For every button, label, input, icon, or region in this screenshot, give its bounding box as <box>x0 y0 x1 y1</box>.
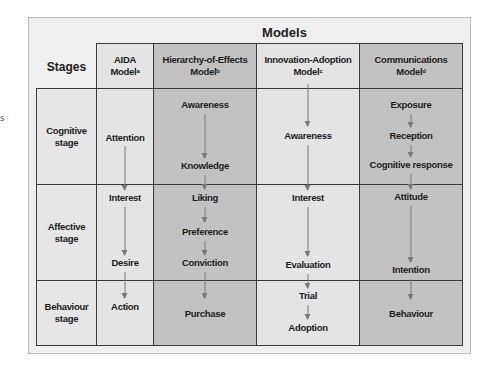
header-hierarchy-name: Hierarchy-of-Effects <box>163 54 248 65</box>
arrow-down-icon <box>411 174 412 189</box>
arrow-down-icon <box>411 279 412 299</box>
header-aida-model: Model <box>111 66 137 77</box>
header-communications-model: Model <box>396 66 422 77</box>
stage-affective-line1: Affective <box>48 221 85 232</box>
arrow-down-icon <box>308 145 309 190</box>
stage-cognitive-line2: stage <box>55 137 78 148</box>
arrow-down-icon <box>411 145 412 157</box>
header-innovation-adoption: Innovation-AdoptionModelc <box>256 43 360 89</box>
hierarchy-purchase: Purchase <box>185 308 225 319</box>
arrow-down-icon <box>308 84 309 126</box>
arrow-down-icon <box>205 272 206 298</box>
footnote-b: b <box>216 68 219 74</box>
innovation-evaluation: Evaluation <box>285 259 330 270</box>
hierarchy-liking: Liking <box>192 192 218 203</box>
hierarchy-awareness: Awareness <box>181 99 228 110</box>
communications-attitude: Attitude <box>394 191 427 202</box>
footnote-c: c <box>319 68 322 74</box>
hierarchy-knowledge: Knowledge <box>181 160 229 171</box>
aida-interest: Interest <box>109 192 141 203</box>
arrow-down-icon <box>308 305 309 319</box>
arrow-down-icon <box>411 114 412 127</box>
aida-action: Action <box>111 301 139 312</box>
header-aida: AIDAModela <box>96 43 154 89</box>
arrow-down-icon <box>205 114 206 158</box>
arrow-down-icon <box>205 175 206 189</box>
innovation-trial: Trial <box>299 290 317 301</box>
hierarchy-preference: Preference <box>182 226 228 237</box>
innovation-interest: Interest <box>292 192 324 203</box>
stage-behaviour-line2: stage <box>55 313 78 324</box>
hierarchy-conviction: Conviction <box>182 257 228 268</box>
aida-desire: Desire <box>111 257 138 268</box>
stage-behaviour: Behaviourstage <box>36 280 97 346</box>
header-innovation-model: Model <box>293 66 319 77</box>
cropped-text-fragment: s <box>0 113 5 123</box>
stage-affective-line2: stage <box>55 233 78 244</box>
arrow-down-icon <box>125 146 126 190</box>
stage-behaviour-line1: Behaviour <box>45 301 89 312</box>
header-communications-name: Communications <box>375 54 448 65</box>
arrow-down-icon <box>125 207 126 255</box>
communications-reception: Reception <box>389 130 432 141</box>
arrow-down-icon <box>205 241 206 255</box>
communications-behaviour: Behaviour <box>389 308 433 319</box>
arrow-down-icon <box>411 206 412 262</box>
innovation-awareness: Awareness <box>284 130 331 141</box>
aida-attention: Attention <box>106 132 145 143</box>
arrow-down-icon <box>205 207 206 222</box>
communications-exposure: Exposure <box>391 99 432 110</box>
header-communications: CommunicationsModeld <box>359 43 463 89</box>
arrow-down-icon <box>308 274 309 288</box>
stage-affective: Affectivestage <box>36 184 97 281</box>
communications-cognitive-response: Cognitive response <box>370 159 453 170</box>
communications-intention: Intention <box>392 264 429 275</box>
arrow-down-icon <box>125 272 126 298</box>
footnote-a: a <box>136 68 139 74</box>
footnote-d: d <box>422 68 425 74</box>
arrow-down-icon <box>308 207 309 256</box>
header-aida-name: AIDA <box>114 54 136 65</box>
stage-cognitive-line1: Cognitive <box>46 125 87 136</box>
header-hierarchy-model: Model <box>190 66 216 77</box>
innovation-adoption: Adoption <box>288 322 327 333</box>
stages-column-header: Stages <box>38 60 95 74</box>
header-innovation-name: Innovation-Adoption <box>264 54 351 65</box>
table-title: Models <box>29 25 470 40</box>
header-hierarchy-of-effects: Hierarchy-of-EffectsModelb <box>153 43 257 89</box>
stage-cognitive: Cognitivestage <box>36 88 97 185</box>
